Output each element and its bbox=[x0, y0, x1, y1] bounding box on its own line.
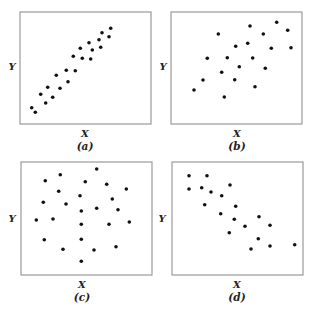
panel-a-caption: (a) bbox=[77, 140, 94, 152]
panel-d-frame bbox=[172, 162, 303, 275]
panel-b: Y X (b) bbox=[159, 12, 302, 152]
data-point bbox=[80, 209, 84, 213]
data-point bbox=[78, 194, 82, 198]
data-point bbox=[253, 85, 257, 89]
data-point bbox=[226, 56, 230, 60]
panel-c-ylabel: Y bbox=[8, 213, 16, 224]
data-point bbox=[264, 67, 268, 71]
data-point bbox=[87, 41, 91, 45]
data-point bbox=[61, 248, 65, 252]
data-point bbox=[248, 24, 252, 28]
data-point bbox=[43, 238, 47, 242]
data-point bbox=[46, 86, 50, 90]
data-point bbox=[100, 31, 104, 35]
data-point bbox=[99, 46, 103, 50]
data-point bbox=[84, 180, 88, 184]
panel-a-frame bbox=[20, 12, 151, 124]
data-point bbox=[243, 225, 247, 229]
data-point bbox=[220, 194, 224, 198]
data-point bbox=[209, 190, 213, 194]
data-point bbox=[268, 244, 272, 248]
data-point bbox=[257, 237, 261, 241]
data-point bbox=[270, 47, 274, 51]
panel-a-xlabel: X bbox=[80, 128, 90, 139]
data-point bbox=[65, 69, 69, 73]
data-point bbox=[114, 245, 118, 249]
data-point bbox=[58, 87, 62, 91]
data-point bbox=[293, 243, 297, 247]
data-point bbox=[109, 27, 113, 31]
panel-c-xlabel: X bbox=[77, 279, 87, 290]
data-point bbox=[64, 202, 68, 206]
panel-d-caption: (d) bbox=[228, 291, 245, 303]
data-point bbox=[80, 223, 84, 227]
scatter-figure: Y X (a) Y X (b) Y X (c) Y X (d) bbox=[0, 0, 316, 314]
data-point bbox=[233, 78, 237, 82]
data-point bbox=[79, 47, 83, 51]
data-point bbox=[246, 42, 250, 46]
data-point bbox=[201, 78, 205, 82]
data-point bbox=[80, 260, 84, 264]
data-point bbox=[228, 183, 232, 187]
data-point bbox=[116, 208, 120, 212]
data-point bbox=[228, 231, 232, 235]
data-point bbox=[268, 224, 272, 228]
panel-b-xlabel: X bbox=[232, 128, 242, 139]
data-point bbox=[111, 197, 115, 201]
data-point bbox=[105, 183, 109, 187]
panel-d: Y X (d) bbox=[158, 162, 303, 303]
data-point bbox=[81, 57, 85, 61]
data-point bbox=[289, 46, 293, 50]
data-point bbox=[275, 21, 279, 25]
data-point bbox=[44, 179, 48, 183]
data-point bbox=[97, 38, 101, 42]
data-point bbox=[89, 57, 93, 61]
data-point bbox=[91, 48, 95, 52]
data-point bbox=[59, 173, 63, 177]
data-point bbox=[57, 190, 61, 194]
data-point bbox=[125, 187, 129, 191]
panel-a-ylabel: Y bbox=[8, 61, 16, 72]
data-point bbox=[74, 69, 78, 73]
data-point bbox=[217, 32, 221, 36]
panel-d-ylabel: Y bbox=[158, 213, 166, 224]
data-point bbox=[200, 186, 204, 190]
data-point bbox=[220, 71, 224, 75]
data-point bbox=[251, 56, 255, 60]
panel-c-frame bbox=[21, 162, 152, 275]
panel-c-caption: (c) bbox=[74, 291, 90, 303]
data-point bbox=[107, 35, 111, 39]
data-point bbox=[203, 203, 207, 207]
data-point bbox=[107, 223, 111, 227]
data-point bbox=[233, 218, 237, 222]
data-point bbox=[286, 29, 290, 33]
data-point bbox=[92, 248, 96, 252]
data-point bbox=[187, 187, 191, 191]
data-point bbox=[219, 212, 223, 216]
data-point bbox=[95, 167, 99, 171]
data-point bbox=[51, 96, 55, 100]
data-point bbox=[187, 174, 191, 178]
data-point bbox=[34, 111, 38, 115]
data-point bbox=[249, 247, 253, 251]
data-point bbox=[128, 220, 132, 224]
data-point bbox=[42, 201, 46, 205]
data-point bbox=[192, 88, 196, 92]
data-point bbox=[238, 65, 242, 69]
data-point bbox=[55, 74, 59, 78]
data-point bbox=[205, 174, 209, 178]
data-point bbox=[72, 55, 76, 59]
data-point bbox=[234, 45, 238, 49]
data-point bbox=[80, 238, 84, 242]
data-point bbox=[234, 205, 238, 209]
panel-d-xlabel: X bbox=[232, 279, 242, 290]
data-point bbox=[39, 93, 43, 97]
data-point bbox=[95, 207, 99, 211]
panel-c: Y X (c) bbox=[8, 162, 152, 303]
data-point bbox=[44, 101, 48, 105]
panel-a: Y X (a) bbox=[8, 12, 151, 152]
panel-b-ylabel: Y bbox=[159, 61, 167, 72]
data-point bbox=[35, 218, 39, 222]
data-point bbox=[206, 57, 210, 61]
data-point bbox=[30, 106, 34, 110]
